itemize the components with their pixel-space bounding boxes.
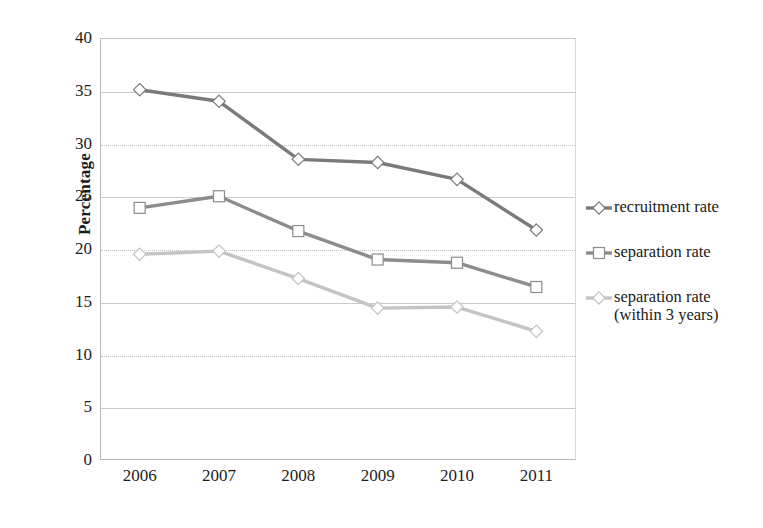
- series-line: [140, 90, 537, 230]
- y-axis-tick-labels: 0510152025303540: [48, 38, 92, 460]
- legend-item-label: separation rate (within 3 years): [614, 288, 718, 325]
- diamond-marker-icon: [213, 245, 225, 257]
- diamond-marker-icon: [371, 156, 383, 168]
- series-1: [133, 83, 542, 236]
- legend-item-label: separation rate: [614, 243, 711, 261]
- square-marker-icon: [586, 244, 612, 262]
- y-tick-label: 25: [48, 186, 92, 206]
- y-tick-label: 10: [48, 345, 92, 365]
- series-layer: [100, 38, 576, 460]
- square-marker-icon: [594, 248, 605, 259]
- square-marker-icon: [531, 281, 542, 292]
- series-line: [140, 251, 537, 331]
- square-marker-icon: [372, 254, 383, 265]
- x-tick-label: 2007: [184, 466, 254, 486]
- diamond-marker-icon: [133, 248, 145, 260]
- diamond-marker-icon: [292, 272, 304, 284]
- y-tick-label: 0: [48, 450, 92, 470]
- x-tick-label: 2008: [263, 466, 333, 486]
- y-tick-label: 40: [48, 28, 92, 48]
- diamond-marker-icon: [593, 292, 605, 304]
- series-2: [134, 191, 542, 293]
- y-tick-label: 15: [48, 292, 92, 312]
- diamond-marker-icon: [451, 301, 463, 313]
- square-marker-icon: [293, 226, 304, 237]
- y-tick-label: 35: [48, 81, 92, 101]
- chart-legend: recruitment rateseparation rateseparatio…: [586, 198, 761, 351]
- x-tick-label: 2010: [422, 466, 492, 486]
- series-line: [140, 196, 537, 287]
- legend-item[interactable]: separation rate: [586, 243, 761, 262]
- square-marker-icon: [134, 202, 145, 213]
- x-axis-tick-labels: 200620072008200920102011: [100, 466, 576, 494]
- chart-figure: Percentage 0510152025303540 200620072008…: [0, 0, 763, 528]
- y-tick-label: 20: [48, 239, 92, 259]
- diamond-marker-icon: [593, 202, 605, 214]
- square-marker-icon: [452, 257, 463, 268]
- legend-item[interactable]: recruitment rate: [586, 198, 761, 217]
- series-3: [133, 245, 542, 338]
- diamond-marker-icon: [530, 325, 542, 337]
- square-marker-icon: [214, 191, 225, 202]
- x-tick-label: 2006: [105, 466, 175, 486]
- legend-item-label: recruitment rate: [614, 198, 719, 216]
- y-tick-label: 5: [48, 397, 92, 417]
- diamond-marker-icon: [586, 199, 612, 217]
- legend-item[interactable]: separation rate (within 3 years): [586, 288, 761, 325]
- diamond-marker-icon: [586, 289, 612, 307]
- diamond-marker-icon: [371, 302, 383, 314]
- diamond-marker-icon: [133, 83, 145, 95]
- y-tick-label: 30: [48, 134, 92, 154]
- x-tick-label: 2011: [501, 466, 571, 486]
- x-tick-label: 2009: [343, 466, 413, 486]
